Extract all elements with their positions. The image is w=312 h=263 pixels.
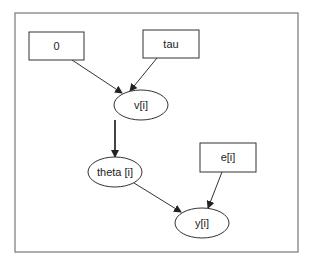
- edge-e-to-y: [208, 172, 222, 208]
- edge-tau-to-v: [130, 58, 157, 91]
- node-theta[interactable]: theta [i]: [88, 157, 142, 187]
- node-tau[interactable]: tau: [143, 30, 199, 58]
- edge-theta-to-y: [134, 183, 181, 212]
- node-e-label: e[i]: [221, 151, 236, 163]
- edge-zero-to-v: [72, 60, 122, 93]
- node-theta-label: theta [i]: [97, 166, 133, 178]
- node-e[interactable]: e[i]: [200, 143, 256, 172]
- node-y-label: y[i]: [195, 217, 209, 229]
- node-v-label: v[i]: [134, 99, 148, 111]
- node-y[interactable]: y[i]: [175, 208, 229, 238]
- diagram-canvas: 0 tau v[i] theta [i] e[i] y[i]: [0, 0, 312, 263]
- node-v[interactable]: v[i]: [114, 90, 168, 120]
- node-zero[interactable]: 0: [29, 32, 84, 60]
- node-zero-label: 0: [53, 40, 59, 52]
- node-tau-label: tau: [163, 38, 178, 50]
